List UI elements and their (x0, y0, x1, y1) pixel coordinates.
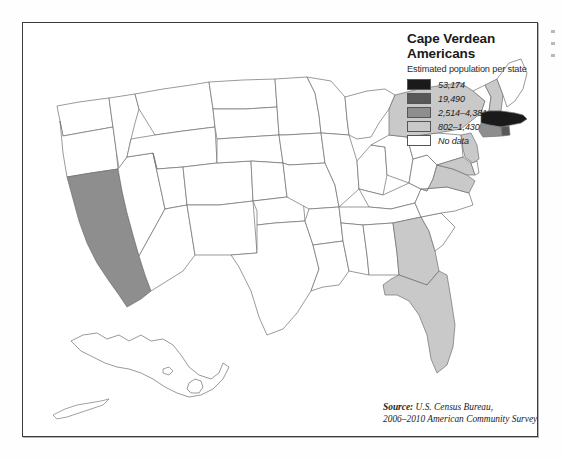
legend-swatch (407, 135, 431, 146)
alaska-inset[interactable] (53, 333, 229, 419)
source-label: Source: (383, 402, 413, 412)
state-FL[interactable] (383, 271, 455, 373)
state-MI[interactable] (345, 89, 395, 139)
state-NE[interactable] (217, 135, 283, 163)
legend-label: No data (438, 136, 469, 146)
state-ND[interactable] (209, 79, 277, 109)
state-MT[interactable] (135, 82, 215, 135)
legend-label: 2,514–4,381 (438, 108, 487, 118)
legend-swatch (407, 79, 431, 90)
state-NM[interactable] (187, 201, 257, 255)
state-IN[interactable] (357, 145, 387, 195)
legend-swatch (407, 107, 431, 118)
aleutian-chain (53, 399, 109, 419)
map-title: Cape Verdean Americans (407, 31, 532, 61)
source-text: U.S. Census Bureau, (413, 402, 493, 412)
map-legend: Cape Verdean Americans Estimated populat… (407, 31, 532, 148)
margin-mark (551, 30, 555, 33)
source-note: Source: U.S. Census Bureau, 2006–2010 Am… (383, 401, 538, 425)
state-AK[interactable] (71, 333, 229, 397)
state-IA[interactable] (279, 133, 325, 165)
source-line2: 2006–2010 American Community Survey (383, 414, 537, 424)
state-SD[interactable] (213, 107, 279, 139)
state-CO[interactable] (183, 161, 253, 205)
legend-row[interactable]: No data (407, 134, 532, 147)
state-AL[interactable] (363, 223, 399, 275)
map-frame: Cape Verdean Americans Estimated populat… (22, 22, 538, 437)
legend-swatch (407, 121, 431, 132)
page-margin-marks (551, 30, 557, 66)
state-KS[interactable] (251, 161, 287, 201)
legend-subtitle: Estimated population per state (407, 64, 532, 74)
legend-label: 53,174 (438, 80, 465, 90)
margin-mark (551, 42, 555, 45)
legend-row[interactable]: 802–1,430 (407, 120, 532, 133)
legend-row[interactable]: 2,514–4,381 (407, 106, 532, 119)
figure-page: Cape Verdean Americans Estimated populat… (0, 0, 562, 459)
legend-row[interactable]: 19,490 (407, 92, 532, 105)
legend-label: 19,490 (438, 94, 465, 104)
legend-label: 802–1,430 (438, 122, 480, 132)
margin-mark (551, 54, 555, 57)
legend-row[interactable]: 53,174 (407, 78, 532, 91)
legend-swatch (407, 93, 431, 104)
legend-items: 53,17419,4902,514–4,381802–1,430No data (407, 78, 532, 147)
